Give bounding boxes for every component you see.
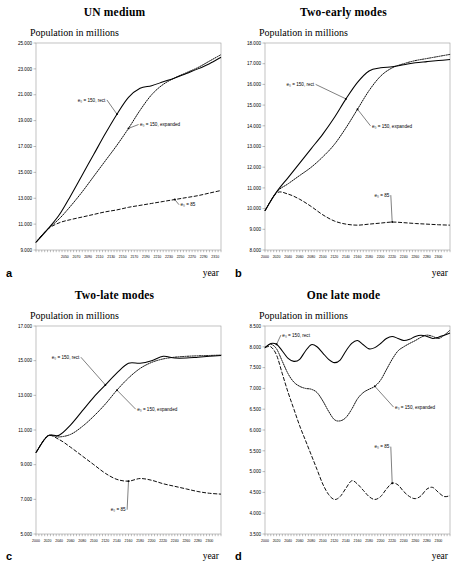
series-line-expanded: [265, 54, 450, 210]
y-tick-label: 8.500: [250, 324, 262, 329]
x-tick-label: 2180: [365, 255, 373, 259]
panel-d-plot: 3.5004.0004.5005.0005.5006.0006.5007.000…: [229, 283, 458, 567]
x-tick-label: 2100: [319, 255, 327, 259]
x-tick-label: 2020: [44, 539, 52, 543]
x-tick-label: 2290: [200, 255, 208, 259]
x-tick-label: 2260: [182, 539, 190, 543]
annotation-leader: [391, 447, 392, 484]
annotation-marker: [116, 113, 118, 115]
x-tick-label: 2200: [377, 539, 385, 543]
x-tick-label: 2110: [96, 255, 104, 259]
panel-b-letter: b: [235, 267, 242, 279]
panel-d: One late mode Population in millions 3.5…: [229, 283, 458, 566]
panel-a-plot: 9.00011.00013.00015.00017.00019.00021.00…: [0, 0, 229, 283]
y-tick-label: 21.000: [18, 92, 32, 97]
annotation-label: e₀ = 85: [181, 202, 196, 207]
x-tick-label: 2080: [78, 539, 86, 543]
x-tick-label: 2060: [67, 539, 75, 543]
y-tick-label: 25.000: [18, 41, 32, 46]
annotation-marker: [128, 127, 130, 129]
y-tick-label: 17.000: [247, 61, 261, 66]
annotation-leader: [316, 84, 346, 98]
x-tick-label: 2100: [90, 539, 98, 543]
series-line-expanded: [36, 355, 221, 452]
panel-b-plot: 8.0009.00010.00011.00012.00013.00014.000…: [229, 0, 458, 283]
panel-b-xlabel: year: [432, 268, 448, 278]
x-tick-label: 2050: [61, 255, 69, 259]
x-tick-label: 2210: [154, 255, 162, 259]
panel-a: UN medium Population in millions 9.00011…: [0, 0, 229, 283]
annotation-marker: [345, 98, 347, 100]
x-tick-label: 2070: [73, 255, 81, 259]
y-tick-label: 17.000: [18, 144, 32, 149]
annotation-leader: [277, 335, 281, 344]
x-tick-label: 2060: [296, 539, 304, 543]
plot-frame: [265, 43, 450, 250]
annotation-label: e₀ = 85: [374, 193, 389, 198]
y-tick-label: 8.000: [250, 345, 262, 350]
annotation-marker: [276, 343, 278, 345]
y-tick-label: 5.000: [21, 532, 33, 537]
x-tick-label: 2000: [261, 539, 269, 543]
y-tick-label: 14.000: [247, 124, 261, 129]
x-tick-label: 2180: [136, 539, 144, 543]
x-tick-label: 2000: [261, 255, 269, 259]
annotation-leader: [107, 100, 117, 114]
annotation-leader: [127, 481, 128, 510]
annotation-leader: [391, 195, 392, 222]
x-tick-label: 2020: [273, 255, 281, 259]
x-tick-label: 2300: [435, 539, 443, 543]
x-tick-label: 2310: [211, 255, 219, 259]
y-tick-label: 7.000: [21, 497, 33, 502]
y-tick-label: 6.500: [250, 407, 262, 412]
y-tick-label: 9.000: [21, 462, 33, 467]
figure-population-projections: UN medium Population in millions 9.00011…: [0, 0, 458, 567]
y-tick-label: 11.000: [247, 186, 261, 191]
annotation-leader: [358, 109, 371, 126]
annotation-marker: [174, 199, 176, 201]
x-tick-label: 2240: [400, 255, 408, 259]
x-tick-label: 2220: [388, 255, 396, 259]
y-tick-label: 4.500: [250, 490, 262, 495]
annotation-label: e₀ = 85: [374, 444, 389, 449]
series-line-85: [265, 346, 450, 499]
annotation-label: e₀ = 150, rect: [287, 82, 315, 87]
panel-b: Two-early modes Population in millions 8…: [229, 0, 458, 283]
x-tick-label: 2250: [177, 255, 185, 259]
x-tick-label: 2100: [319, 539, 327, 543]
x-tick-label: 2040: [55, 539, 63, 543]
annotation-marker: [391, 221, 393, 223]
x-tick-label: 2200: [377, 255, 385, 259]
y-tick-label: 7.500: [250, 365, 262, 370]
plot-frame: [36, 43, 221, 250]
x-tick-label: 2080: [307, 255, 315, 259]
annotation-marker: [128, 480, 130, 482]
series-line-85: [265, 192, 450, 225]
annotation-label: e₀ = 150, rect: [282, 333, 310, 338]
y-tick-label: 5.500: [250, 449, 262, 454]
x-tick-label: 2280: [423, 539, 431, 543]
x-tick-label: 2040: [284, 255, 292, 259]
annotation-marker: [374, 385, 376, 387]
x-tick-label: 2180: [365, 539, 373, 543]
annotation-leader: [175, 200, 179, 205]
panel-c-xlabel: year: [203, 551, 219, 561]
x-tick-label: 2240: [400, 539, 408, 543]
annotation-marker: [104, 384, 106, 386]
y-tick-label: 9.000: [21, 248, 33, 253]
y-tick-label: 6.000: [250, 428, 262, 433]
x-tick-label: 2140: [113, 539, 121, 543]
panel-a-xlabel: year: [203, 268, 219, 278]
x-tick-label: 2130: [107, 255, 115, 259]
y-tick-label: 7.000: [250, 386, 262, 391]
x-tick-label: 2300: [206, 539, 214, 543]
x-tick-label: 2260: [411, 539, 419, 543]
y-tick-label: 17.000: [18, 324, 32, 329]
y-tick-label: 8.000: [250, 248, 262, 253]
series-line-85: [36, 190, 221, 242]
y-tick-label: 11.000: [18, 428, 32, 433]
x-tick-label: 2060: [296, 255, 304, 259]
y-tick-label: 16.000: [247, 82, 261, 87]
series-line-rect: [36, 355, 221, 452]
x-tick-label: 2300: [435, 255, 443, 259]
